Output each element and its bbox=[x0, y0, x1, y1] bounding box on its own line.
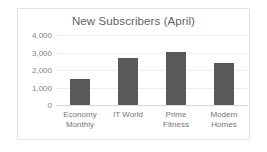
y-axis-tick-label: 4,000 bbox=[32, 31, 52, 40]
bar-group: Prime Fitness bbox=[152, 35, 200, 105]
bar-series: Economy MonthlyIT WorldPrime FitnessMode… bbox=[56, 35, 248, 105]
bar-group: IT World bbox=[104, 35, 152, 105]
plot-area: 4,0003,0002,0001,0000 Economy MonthlyIT … bbox=[56, 35, 248, 105]
x-axis-category-label: IT World bbox=[105, 110, 151, 120]
bar bbox=[166, 52, 186, 105]
bar bbox=[214, 63, 234, 105]
bar-group: Modern Homes bbox=[200, 35, 248, 105]
chart-frame: New Subscribers (April) 4,0003,0002,0001… bbox=[17, 8, 250, 140]
y-axis-tick-label: 0 bbox=[48, 101, 52, 110]
y-axis-tick-label: 3,000 bbox=[32, 48, 52, 57]
bar bbox=[118, 58, 138, 105]
bar bbox=[70, 79, 90, 105]
chart-title: New Subscribers (April) bbox=[18, 15, 249, 27]
bar-group: Economy Monthly bbox=[56, 35, 104, 105]
y-axis-tick-label: 1,000 bbox=[32, 83, 52, 92]
y-axis-tick-label: 2,000 bbox=[32, 66, 52, 75]
axis-baseline bbox=[56, 105, 248, 106]
x-axis-category-label: Economy Monthly bbox=[57, 110, 103, 129]
x-axis-category-label: Prime Fitness bbox=[153, 110, 199, 129]
x-axis-category-label: Modern Homes bbox=[201, 110, 247, 129]
